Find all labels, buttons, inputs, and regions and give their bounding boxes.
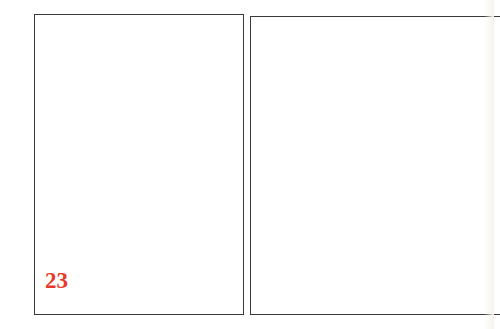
right-page-frame: [250, 16, 500, 315]
left-page-frame: 23: [34, 14, 244, 315]
page-number: 23: [45, 268, 68, 294]
page-edge-shadow: [484, 0, 494, 329]
